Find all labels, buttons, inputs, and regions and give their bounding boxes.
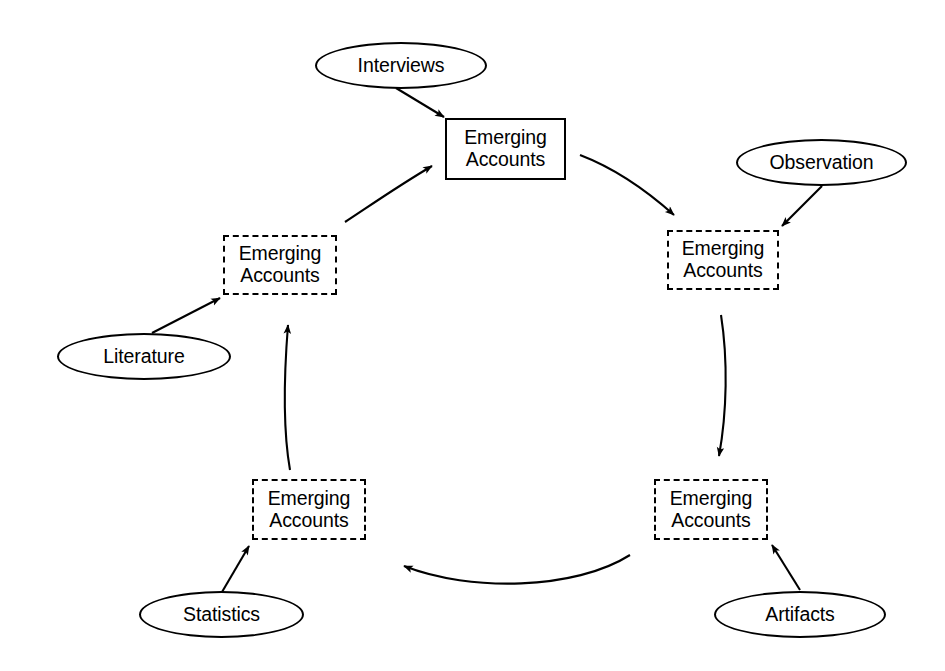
node-bottom-right-emerging-accounts[interactable]: Emerging Accounts	[654, 479, 768, 540]
node-label-line2: Accounts	[269, 510, 348, 532]
ellipse-label: Statistics	[183, 603, 260, 626]
diagram-canvas: Emerging Accounts Emerging Accounts Emer…	[0, 0, 945, 671]
edge-literature-to-left	[152, 298, 220, 333]
edge-artifacts-to-bottom-right	[772, 545, 800, 590]
node-left-emerging-accounts[interactable]: Emerging Accounts	[223, 235, 337, 295]
node-label-line1: Emerging	[670, 488, 753, 510]
node-bottom-left-emerging-accounts[interactable]: Emerging Accounts	[252, 479, 366, 540]
ellipse-label: Artifacts	[765, 603, 835, 626]
ellipse-label: Interviews	[358, 54, 445, 77]
node-label-line1: Emerging	[239, 243, 322, 265]
node-label-line1: Emerging	[682, 238, 765, 260]
ellipse-statistics[interactable]: Statistics	[139, 591, 304, 638]
node-label-line2: Accounts	[683, 260, 762, 282]
node-label-line1: Emerging	[268, 488, 351, 510]
node-label-line1: Emerging	[464, 127, 547, 149]
edge-interviews-to-top	[396, 88, 444, 117]
node-right-emerging-accounts[interactable]: Emerging Accounts	[667, 230, 779, 290]
edge-right-to-bottom-right	[719, 315, 726, 456]
edge-bottom-right-to-bottom-left	[404, 555, 630, 584]
ellipse-label: Literature	[103, 345, 184, 368]
edge-top-to-right	[580, 155, 674, 215]
edge-bottom-left-to-left	[285, 325, 290, 470]
ellipse-interviews[interactable]: Interviews	[315, 42, 487, 89]
ellipse-literature[interactable]: Literature	[57, 333, 231, 380]
node-label-line2: Accounts	[240, 265, 319, 287]
ellipse-label: Observation	[769, 151, 873, 174]
edge-observation-to-right	[782, 186, 822, 226]
ellipse-artifacts[interactable]: Artifacts	[714, 591, 886, 638]
ellipse-observation[interactable]: Observation	[736, 139, 907, 186]
edge-statistics-to-bottom-left	[222, 546, 249, 592]
node-label-line2: Accounts	[671, 510, 750, 532]
node-label-line2: Accounts	[466, 149, 545, 171]
node-top-emerging-accounts[interactable]: Emerging Accounts	[445, 118, 566, 180]
edge-left-to-top	[345, 166, 432, 222]
